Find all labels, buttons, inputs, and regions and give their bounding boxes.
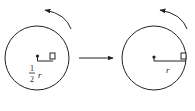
right-radius-label: r: [166, 65, 170, 75]
diagram: 1 2 r r: [0, 0, 195, 111]
left-radius-label: r: [38, 70, 42, 80]
right-rotation-arrow-icon: [160, 10, 187, 29]
left-rotation-arrow-icon: [45, 10, 71, 29]
left-fraction-denominator: 2: [30, 75, 34, 84]
left-fraction-numerator: 1: [30, 64, 34, 73]
right-circle-group: r: [122, 10, 187, 90]
left-block: [50, 53, 55, 59]
left-circle-group: 1 2 r: [5, 10, 71, 90]
right-block: [181, 53, 186, 59]
